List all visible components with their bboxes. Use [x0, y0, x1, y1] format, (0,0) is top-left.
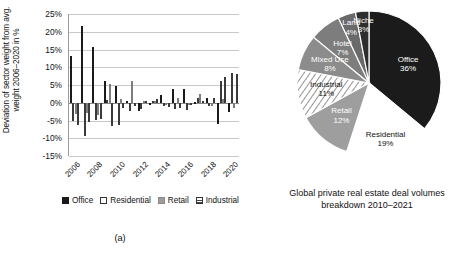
bar-industrial-2007: [88, 103, 90, 122]
figure-container: Deviation of sector weight from avg. wei…: [0, 0, 472, 258]
gridline: [69, 50, 239, 51]
square-hatched-icon: [196, 197, 203, 204]
square-outline-white-icon: [100, 197, 107, 204]
x-axis-tick-2014: 2014: [154, 160, 173, 179]
bar-industrial-2013: [156, 99, 158, 103]
x-axis-tick-2016: 2016: [176, 160, 195, 179]
y-axis-tick-label: -15%: [28, 151, 62, 161]
gridline: [69, 14, 239, 15]
bar-office-2007: [81, 26, 83, 102]
y-axis-tick-label: 10%: [28, 62, 62, 72]
x-axis-tick-2006: 2006: [63, 160, 82, 179]
square-solid-black-icon: [62, 197, 69, 204]
bar-industrial-2020: [236, 74, 238, 102]
bar-office-2019: [217, 103, 219, 124]
legend-item-industrial: Industrial: [196, 196, 239, 205]
y-axis-tick-label: 15%: [28, 45, 62, 55]
bar-industrial-2009: [111, 103, 113, 126]
y-axis-tick-label: 0%: [28, 98, 62, 108]
bar-retail-2018: [211, 103, 213, 107]
bar-office-2013: [149, 103, 151, 105]
x-axis-tick-2008: 2008: [86, 160, 105, 179]
bar-industrial-2016: [190, 103, 192, 105]
legend-label-retail: Retail: [168, 196, 189, 205]
gridline: [69, 67, 239, 68]
bar-industrial-2018: [213, 98, 215, 103]
legend-label-residential: Residential: [110, 196, 151, 205]
legend-label-office: Office: [72, 196, 93, 205]
bar-office-2014: [160, 95, 162, 103]
y-axis-label: Deviation of sector weight from avg. wei…: [2, 4, 30, 136]
bar-retail-2020: [233, 103, 235, 108]
x-axis-tick-2010: 2010: [108, 160, 127, 179]
subcaption-a: (a): [100, 233, 140, 243]
bar-residential-2011: [129, 103, 131, 112]
bar-industrial-2008: [100, 103, 102, 119]
bar-office-2008: [92, 47, 94, 102]
pie-chart-caption: Global private real estate deal volumes …: [272, 188, 462, 211]
legend-item-retail: Retail: [158, 196, 189, 205]
legend-item-residential: Residential: [100, 196, 151, 205]
bar-office-2015: [172, 89, 174, 103]
gridline: [69, 32, 239, 33]
bar-industrial-2019: [224, 77, 226, 103]
bar-retail-2009: [109, 84, 111, 103]
bar-office-2006: [70, 56, 72, 103]
bar-residential-2015: [174, 103, 176, 110]
square-solid-gray-icon: [158, 197, 165, 204]
gridline: [69, 138, 239, 139]
bar-residential-2012: [140, 103, 142, 109]
bar-office-2010: [115, 86, 117, 103]
bar-chart-legend: Office Residential Retail Industrial: [62, 196, 262, 205]
bar-office-2016: [183, 89, 185, 103]
bar-industrial-2012: [145, 101, 147, 103]
bar-chart-plot-area: [68, 14, 239, 156]
y-axis-tick-label: -5%: [28, 116, 62, 126]
bar-industrial-2014: [168, 103, 170, 108]
legend-item-office: Office: [62, 196, 93, 205]
bar-retail-2011: [131, 81, 133, 102]
bar-office-2020: [228, 103, 230, 112]
y-axis-tick-label: 5%: [28, 80, 62, 90]
pie-chart-svg: [294, 8, 444, 158]
bar-residential-2020: [231, 73, 233, 103]
y-axis-tick-label: 25%: [28, 9, 62, 19]
x-axis-tick-2012: 2012: [131, 160, 150, 179]
legend-label-industrial: Industrial: [206, 196, 239, 205]
bar-industrial-2010: [122, 103, 124, 108]
bar-residential-2010: [118, 103, 120, 125]
caption-line-1: Global private real estate deal volumes …: [272, 188, 462, 211]
x-axis-tick-2020: 2020: [222, 160, 241, 179]
bar-industrial-2011: [134, 103, 136, 106]
bar-industrial-2017: [202, 101, 204, 103]
y-axis-tick-label: -10%: [28, 133, 62, 143]
x-axis-tick-2018: 2018: [199, 160, 218, 179]
panel-b-pie-chart: Office36%Residential19%Retail12%Industri…: [258, 0, 472, 258]
bar-industrial-2015: [179, 103, 181, 109]
gridline: [69, 85, 239, 86]
gridline: [69, 156, 239, 157]
pie-chart: Office36%Residential19%Retail12%Industri…: [294, 8, 444, 158]
gridline: [69, 121, 239, 122]
bar-industrial-2006: [77, 103, 79, 126]
y-axis-tick-label: 20%: [28, 27, 62, 37]
panel-a-bar-chart: Deviation of sector weight from avg. wei…: [0, 0, 258, 258]
